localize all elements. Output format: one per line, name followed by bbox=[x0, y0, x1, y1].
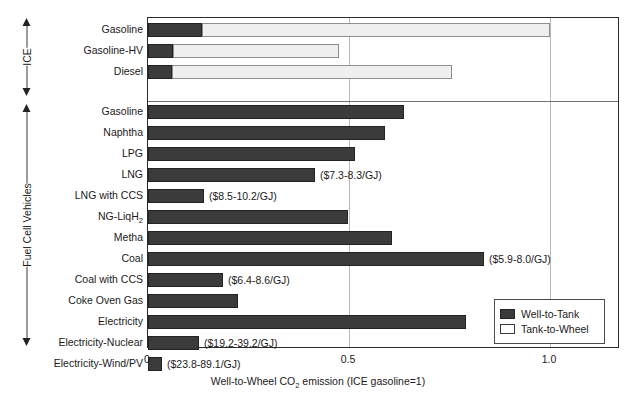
legend-swatch-tank-to-wheel-icon bbox=[500, 324, 515, 334]
legend-label-tank-to-wheel: Tank-to-Wheel bbox=[521, 323, 589, 335]
legend-item-well-to-tank: Well-to-Tank bbox=[500, 306, 599, 321]
bar-segment-tank-to-wheel bbox=[173, 44, 339, 58]
gridline-1-0 bbox=[550, 18, 551, 347]
chart-figure: ICE Fuel Cell Vehicles Gasoline Gasoline… bbox=[0, 0, 636, 414]
category-label-ice-gasoline-hv: Gasoline-HV bbox=[0, 44, 143, 56]
bar-segment-well-to-tank bbox=[148, 294, 238, 308]
category-label-fcv-metha: Metha bbox=[0, 231, 143, 243]
bar-segment-well-to-tank bbox=[148, 189, 204, 203]
bar-segment-well-to-tank bbox=[148, 168, 315, 182]
legend-label-well-to-tank: Well-to-Tank bbox=[521, 308, 579, 320]
bar-segment-well-to-tank bbox=[148, 23, 202, 37]
x-axis-title: Well-to-Wheel CO2 emission (ICE gasoline… bbox=[0, 375, 636, 390]
bar-segment-well-to-tank bbox=[148, 44, 173, 58]
x-axis-title-part-b: emission (ICE gasoline=1) bbox=[299, 375, 425, 387]
arrow-down-icon bbox=[23, 88, 31, 96]
category-label-ice-gasoline: Gasoline bbox=[0, 23, 143, 35]
bar-segment-well-to-tank bbox=[148, 147, 355, 161]
annotation-lng: ($7.3-8.3/GJ) bbox=[320, 169, 382, 181]
category-label-fcv-lng: LNG bbox=[0, 168, 143, 180]
bar-segment-well-to-tank bbox=[148, 126, 385, 140]
bar-segment-well-to-tank bbox=[148, 336, 199, 350]
category-label-fcv-coal-with-ccs: Coal with CCS bbox=[0, 273, 143, 285]
annotation-coal-with-ccs: ($6.4-8.6/GJ) bbox=[228, 274, 290, 286]
bar-segment-tank-to-wheel bbox=[202, 23, 550, 37]
category-label-fcv-naphtha: Naphtha bbox=[0, 126, 143, 138]
category-label-fcv-ng-liqh2: NG-LiqH2 bbox=[0, 210, 143, 227]
annotation-electricity-nuclear: ($19.2-39.2/GJ) bbox=[204, 337, 278, 349]
legend: Well-to-Tank Tank-to-Wheel bbox=[494, 299, 605, 344]
category-label-fcv-lng-with-ccs: LNG with CCS bbox=[0, 189, 143, 201]
bar-segment-tank-to-wheel bbox=[172, 65, 452, 79]
bar-segment-well-to-tank bbox=[148, 315, 466, 329]
annotation-electricity-wind-pv: ($23.8-89.1/GJ) bbox=[167, 358, 241, 370]
annotation-coal: ($5.9-8.0/GJ) bbox=[489, 253, 551, 265]
bar-segment-well-to-tank bbox=[148, 65, 172, 79]
bar-segment-well-to-tank bbox=[148, 252, 484, 266]
category-label-fcv-electricity: Electricity bbox=[0, 315, 143, 327]
xtick-0: 0 bbox=[127, 353, 167, 365]
xtick-0-5: 0.5 bbox=[328, 353, 368, 365]
group-separator bbox=[148, 101, 618, 102]
annotation-lng-with-ccs: ($8.5-10.2/GJ) bbox=[209, 190, 277, 202]
category-label-fcv-electricity-nuclear: Electricity-Nuclear bbox=[0, 336, 143, 348]
category-label-fcv-gasoline: Gasoline bbox=[0, 105, 143, 117]
bar-segment-well-to-tank bbox=[148, 210, 348, 224]
category-label-fcv-coke-oven-gas: Coke Oven Gas bbox=[0, 294, 143, 306]
legend-item-tank-to-wheel: Tank-to-Wheel bbox=[500, 321, 599, 336]
label-text: NG-LiqH bbox=[98, 210, 139, 222]
x-axis-title-part-a: Well-to-Wheel CO bbox=[211, 375, 295, 387]
category-label-ice-diesel: Diesel bbox=[0, 65, 143, 77]
label-subscript: 2 bbox=[139, 216, 143, 225]
xtick-1-0: 1.0 bbox=[529, 353, 569, 365]
category-label-fcv-electricity-wind-pv: Electricity-Wind/PV bbox=[0, 357, 143, 369]
bar-segment-well-to-tank bbox=[148, 231, 392, 245]
category-label-fcv-coal: Coal bbox=[0, 252, 143, 264]
bar-segment-well-to-tank bbox=[148, 105, 404, 119]
plot-area: Well-to-Tank Tank-to-Wheel bbox=[147, 17, 619, 348]
bar-segment-well-to-tank bbox=[148, 273, 223, 287]
category-label-fcv-lpg: LPG bbox=[0, 147, 143, 159]
legend-swatch-well-to-tank-icon bbox=[500, 309, 515, 319]
